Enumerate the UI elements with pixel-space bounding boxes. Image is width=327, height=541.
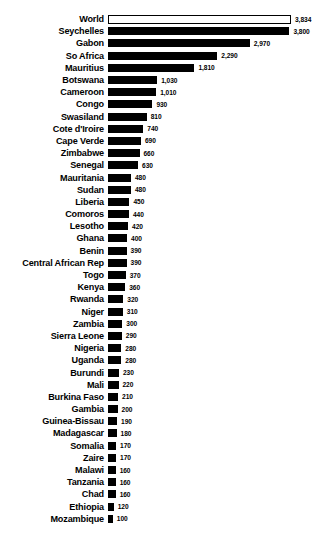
bar-category-label: So Africa — [0, 51, 108, 61]
bar-category-label: Sudan — [0, 185, 108, 195]
bar-hollow — [108, 15, 291, 24]
bar-row: Guinea-Bissau190 — [0, 415, 327, 427]
bar-value-label: 1,810 — [194, 64, 214, 71]
bar-value-label: 420 — [128, 223, 143, 230]
bar-category-label: Senegal — [0, 160, 108, 170]
bar-plot-area: 2,290 — [108, 50, 327, 62]
bar-row: Rwanda320 — [0, 293, 327, 305]
bar-value-label: 810 — [147, 113, 162, 120]
bar-row: Seychelles3,800 — [0, 25, 327, 37]
bar-value-label: 630 — [138, 162, 153, 169]
bar-category-label: Sierra Leone — [0, 331, 108, 341]
bar — [108, 64, 194, 72]
bar-plot-area: 170 — [108, 452, 327, 464]
bar-value-label: 160 — [116, 467, 131, 474]
bar — [108, 466, 116, 474]
bar-value-label: 450 — [129, 198, 144, 205]
bar-value-label: 2,970 — [250, 40, 270, 47]
bar — [108, 332, 122, 340]
bar-value-label: 390 — [127, 247, 142, 254]
bar-category-label: Zambia — [0, 319, 108, 329]
bar-category-label: Zimbabwe — [0, 148, 108, 158]
bar-plot-area: 180 — [108, 427, 327, 439]
bar-category-label: Gabon — [0, 38, 108, 48]
bar-row: So Africa2,290 — [0, 50, 327, 62]
bar-row: Liberia450 — [0, 196, 327, 208]
bar-value-label: 160 — [116, 491, 131, 498]
bar-value-label: 180 — [117, 430, 132, 437]
bar-row: Mozambique100 — [0, 513, 327, 525]
bar-category-label: Swasiland — [0, 112, 108, 122]
bar-row: Cameroon1,010 — [0, 86, 327, 98]
bar-value-label: 170 — [116, 442, 131, 449]
bar-plot-area: 280 — [108, 342, 327, 354]
bar-category-label: Madagascar — [0, 428, 108, 438]
bar-row: Gabon2,970 — [0, 37, 327, 49]
bar-row: Zambia300 — [0, 318, 327, 330]
bar-row: Zaire170 — [0, 452, 327, 464]
bar-row: Zimbabwe660 — [0, 147, 327, 159]
bar-category-label: Guinea-Bissau — [0, 416, 108, 426]
bar — [108, 271, 126, 279]
bar-plot-area: 120 — [108, 501, 327, 513]
bar-plot-area: 200 — [108, 403, 327, 415]
bar — [108, 27, 289, 35]
bar-row: Burkina Faso210 — [0, 391, 327, 403]
bar-value-label: 3,800 — [289, 28, 309, 35]
bar-category-label: Lesotho — [0, 221, 108, 231]
bar — [108, 222, 128, 230]
bar — [108, 247, 127, 255]
bar-value-label: 230 — [119, 369, 134, 376]
bar-row: Sierra Leone290 — [0, 330, 327, 342]
bar — [108, 234, 127, 242]
bar-plot-area: 440 — [108, 208, 327, 220]
bar-category-label: Burundi — [0, 368, 108, 378]
bar-value-label: 2,290 — [217, 52, 237, 59]
bar — [108, 405, 118, 413]
bar — [108, 125, 143, 133]
bar — [108, 356, 121, 364]
bar-value-label: 310 — [123, 308, 138, 315]
bar — [108, 381, 119, 389]
bar-plot-area: 370 — [108, 269, 327, 281]
bar — [108, 320, 122, 328]
bar — [108, 417, 117, 425]
bar — [108, 283, 125, 291]
bar-category-label: Mauritania — [0, 173, 108, 183]
bar — [108, 210, 129, 218]
bar-plot-area: 740 — [108, 123, 327, 135]
bar-value-label: 280 — [121, 357, 136, 364]
bar-category-label: Seychelles — [0, 26, 108, 36]
bar — [108, 100, 152, 108]
bar-row: Chad160 — [0, 488, 327, 500]
bar-category-label: Kenya — [0, 282, 108, 292]
bar-row: Mauritania480 — [0, 171, 327, 183]
bar-plot-area: 3,834 — [108, 13, 327, 25]
bar — [108, 88, 156, 96]
bar-row: Ethiopia120 — [0, 501, 327, 513]
bar-value-label: 220 — [119, 381, 134, 388]
bar — [108, 198, 129, 206]
bar-row: Cote d'Iroire740 — [0, 123, 327, 135]
bar-plot-area: 280 — [108, 354, 327, 366]
horizontal-bar-chart: World3,834Seychelles3,800Gabon2,970So Af… — [0, 0, 327, 541]
bar-category-label: Somalia — [0, 441, 108, 451]
bar — [108, 369, 119, 377]
bar-row: Mali220 — [0, 379, 327, 391]
bar-category-label: World — [0, 14, 108, 24]
bar-value-label: 290 — [122, 332, 137, 339]
bar-value-label: 190 — [117, 418, 132, 425]
bar-plot-area: 210 — [108, 391, 327, 403]
bar-category-label: Benin — [0, 246, 108, 256]
bar-plot-area: 420 — [108, 220, 327, 232]
bar — [108, 174, 131, 182]
bar-row: Mauritius1,810 — [0, 62, 327, 74]
bar-value-label: 660 — [140, 150, 155, 157]
bar-plot-area: 1,010 — [108, 86, 327, 98]
bar-value-label: 690 — [141, 137, 156, 144]
bar-category-label: Cameroon — [0, 87, 108, 97]
bar — [108, 478, 116, 486]
bar-value-label: 160 — [116, 479, 131, 486]
bar-row: Somalia170 — [0, 440, 327, 452]
bar-plot-area: 320 — [108, 293, 327, 305]
